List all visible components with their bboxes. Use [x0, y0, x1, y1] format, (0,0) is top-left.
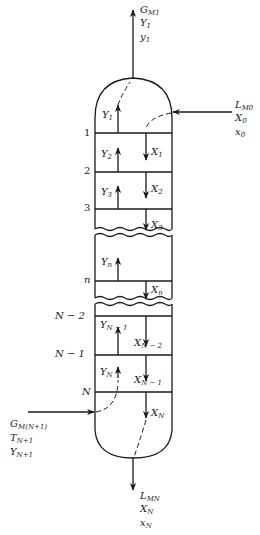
- dashed-vapor-exit-curve: [118, 82, 130, 105]
- tray-number-n: n: [84, 274, 90, 286]
- vapor-label-Yn: Yn: [101, 256, 112, 268]
- column-bottom-cap: [95, 430, 172, 458]
- dashed-liquid-exit-curve: [134, 420, 146, 457]
- dashed-liquid-entry-curve: [146, 113, 171, 128]
- vapor-label-Y1: Y1: [102, 109, 113, 121]
- bottom-outlet-label-X: XN: [140, 503, 153, 515]
- top-outlet-label-Y: Y1: [140, 17, 151, 29]
- liquid-label-X2: X2: [151, 183, 163, 195]
- tray-number-1: 1: [84, 127, 90, 139]
- liquid-label-X3: X3: [151, 219, 163, 231]
- vapor-label-Y2: Y2: [101, 148, 112, 160]
- liquid-label-XN-1: XN − 1: [134, 374, 162, 386]
- liquid-label-XN: XN: [151, 407, 164, 419]
- top-inlet-label-L: LM0: [235, 99, 253, 111]
- bottom-outlet-label-x: xN: [140, 517, 152, 529]
- tray-number-N-1: N − 1: [55, 348, 85, 360]
- top-inlet-label-x: x0: [235, 126, 245, 138]
- bottom-inlet-label-G: GM(N+1): [10, 418, 47, 430]
- bottom-outlet-label-L: LMN: [140, 490, 160, 502]
- tray-number-2: 2: [84, 165, 90, 177]
- tray-number-N: N: [82, 386, 91, 398]
- break-wave-2b: [95, 303, 172, 306]
- liquid-label-Xn: Xn: [151, 284, 163, 296]
- top-outlet-label-y: y1: [140, 31, 150, 43]
- dashed-gas-entry-curve: [96, 380, 118, 412]
- bottom-inlet-label-Y: YN+1: [10, 446, 33, 458]
- top-inlet-label-X: X0: [235, 112, 247, 124]
- vapor-label-Y3: Y3: [101, 186, 112, 198]
- column-diagram: [0, 0, 260, 535]
- vapor-label-YN: YN: [100, 366, 113, 378]
- break-wave-1b: [95, 234, 172, 237]
- tray-number-3: 3: [84, 202, 90, 214]
- vapor-label-YN-1: YN − 1: [100, 319, 128, 331]
- bottom-inlet-label-T: TN+1: [10, 432, 33, 444]
- tray-number-N-2: N − 2: [55, 310, 85, 322]
- liquid-label-X1: X1: [151, 146, 163, 158]
- top-outlet-label-G: GM1: [140, 4, 160, 16]
- liquid-label-XN-2: XN − 2: [134, 337, 162, 349]
